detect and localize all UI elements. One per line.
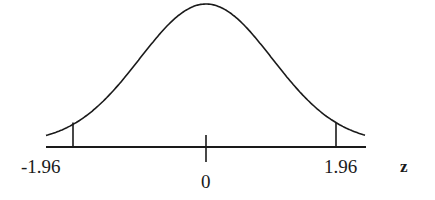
tick-label-left: -1.96 xyxy=(21,157,61,176)
tick-label-center: 0 xyxy=(201,172,211,191)
tick-label-right: 1.96 xyxy=(324,157,357,176)
axis-label-z: z xyxy=(400,158,408,175)
normal-distribution-chart: -1.96 0 1.96 z xyxy=(0,0,435,200)
normal-curve xyxy=(46,4,365,135)
chart-canvas xyxy=(0,0,435,200)
